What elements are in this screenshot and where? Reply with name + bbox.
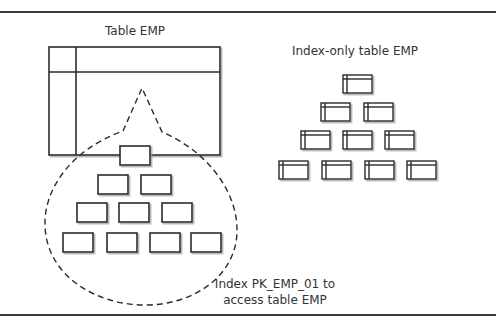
iot-node-leaf [365,161,394,179]
iot-node-leaf [279,161,308,179]
index-node [98,175,128,194]
iot-node-root [343,75,372,93]
iot-node-leaf [407,161,436,179]
index-only-table-tree [279,75,436,179]
table-emp [49,47,220,155]
diagram-canvas [0,0,496,329]
index-node-leaf [150,233,180,252]
index-node [119,203,149,222]
index-node [77,203,107,222]
iot-node [301,131,330,149]
index-node-root [120,146,150,165]
iot-node [321,103,350,121]
index-node-leaf [107,233,137,252]
index-tree-pk-emp-01 [63,146,221,252]
iot-node-leaf [322,161,351,179]
index-node-leaf [191,233,221,252]
iot-node [343,131,372,149]
index-node-leaf [63,233,93,252]
index-node [162,203,192,222]
iot-node [385,131,414,149]
iot-node [364,103,393,121]
index-node [141,175,171,194]
